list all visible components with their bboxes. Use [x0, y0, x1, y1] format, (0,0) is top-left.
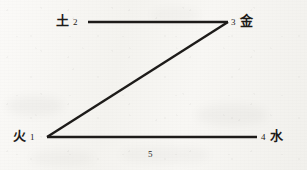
- edge-label-bottom: 5: [148, 150, 153, 159]
- node-label-metal: 3 金: [231, 14, 253, 27]
- node-character-fire: 火: [13, 129, 26, 142]
- node-character-water: 水: [270, 129, 283, 142]
- node-index-metal: 3: [231, 18, 236, 27]
- node-label-water: 4 水: [261, 129, 283, 142]
- z-path-graphic: [0, 0, 307, 170]
- diagram-canvas: 土 2 3 金 火 1 4 水 5: [0, 0, 307, 170]
- edge-metal-to-fire: [47, 22, 228, 137]
- node-character-metal: 金: [240, 14, 253, 27]
- node-index-fire: 1: [30, 133, 35, 142]
- node-index-earth: 2: [73, 18, 78, 27]
- node-character-earth: 土: [56, 14, 69, 27]
- node-label-earth: 土 2: [56, 14, 78, 27]
- node-label-fire: 火 1: [13, 129, 35, 142]
- node-index-water: 4: [261, 133, 266, 142]
